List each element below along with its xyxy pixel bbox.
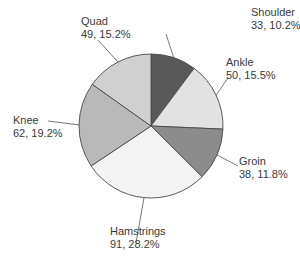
label-ankle: Ankle 50, 15.5% xyxy=(226,56,276,82)
label-shoulder-name: Shoulder xyxy=(251,6,300,19)
label-shoulder: Shoulder 33, 10.2% xyxy=(251,6,300,32)
label-knee-value: 62, 19.2% xyxy=(13,127,63,140)
label-groin: Groin 38, 11.8% xyxy=(239,155,288,181)
label-groin-name: Groin xyxy=(239,155,288,168)
pie-chart: Shoulder 33, 10.2% Ankle 50, 15.5% Groin… xyxy=(0,0,300,259)
label-quad-name: Quad xyxy=(81,15,131,28)
label-quad-value: 49, 15.2% xyxy=(81,28,131,41)
label-ankle-name: Ankle xyxy=(226,56,276,69)
label-hamstrings-name: Hamstrings xyxy=(110,225,166,238)
label-shoulder-value: 33, 10.2% xyxy=(251,19,300,32)
label-knee: Knee 62, 19.2% xyxy=(13,114,63,140)
label-hamstrings-value: 91, 28.2% xyxy=(110,238,166,251)
label-hamstrings: Hamstrings 91, 28.2% xyxy=(110,225,166,251)
leader-line-quad xyxy=(98,40,118,62)
label-ankle-value: 50, 15.5% xyxy=(226,69,276,82)
label-knee-name: Knee xyxy=(13,114,63,127)
leader-line-shoulder xyxy=(166,34,174,58)
label-quad: Quad 49, 15.2% xyxy=(81,15,131,41)
pie-slices xyxy=(79,54,223,198)
leader-line-groin xyxy=(217,155,238,166)
label-groin-value: 38, 11.8% xyxy=(239,168,288,181)
